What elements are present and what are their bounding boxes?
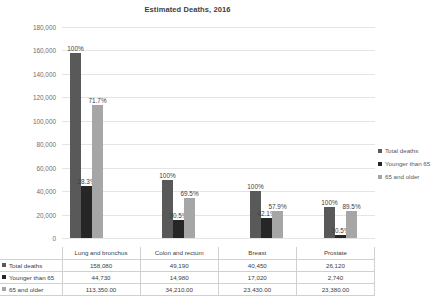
table-cell: 2,740 [296,271,374,283]
legend-swatch-icon [378,162,382,166]
bar[interactable] [272,211,283,238]
table-row-header: Total deaths [0,259,62,271]
legend-item-label: Younger than 65 [385,160,430,167]
table-column-header: Prostate [296,247,374,259]
bar[interactable] [162,180,173,238]
bar[interactable] [70,53,81,238]
chart-legend: Total deathsYounger than 6565 and older [378,144,444,183]
bar-group: 100%42.1%57.9% [250,27,283,238]
table-cell: 40,450 [218,259,296,271]
bar[interactable] [81,186,92,238]
table-cell: 158,080 [62,259,140,271]
bar[interactable] [346,211,357,238]
bar-value-label: 57.9% [265,203,291,210]
bar-value-label: 69.5% [177,190,203,197]
bar[interactable] [184,198,195,238]
table-column-header: Breast [218,247,296,259]
bar[interactable] [92,105,103,238]
table-cell: 14,980 [140,271,218,283]
legend-item[interactable]: Younger than 65 [378,157,444,170]
table-cell: 17,020 [218,271,296,283]
bar-value-label: 100% [155,172,181,179]
bar-value-label: 100% [63,45,89,52]
table-row-header-label: 65 and older [9,286,43,293]
table-cell: 44,730 [62,271,140,283]
table-column-header: Lung and bronchus [62,247,140,259]
bar-value-label: 100% [243,183,269,190]
table-corner-cell [0,247,62,259]
bar-value-label: 89.5% [339,203,365,210]
data-table: Lung and bronchusColon and rectumBreastP… [0,247,375,296]
bar-group: 100%28.3%71.7% [70,27,103,238]
table-cell: 49,190 [140,259,218,271]
legend-item[interactable]: Total deaths [378,144,444,157]
bar[interactable] [261,218,272,238]
bar-group: 100%10.5%89.5% [324,27,357,238]
legend-item-label: Total deaths [385,147,418,154]
bar-group: 100%30.5%69.5% [162,27,195,238]
table-cell: 23,430.00 [218,283,296,295]
table-row: 65 and older113,350.0034,210.0023,430.00… [0,283,375,295]
bar[interactable] [173,220,184,238]
series-swatch-icon [2,263,6,267]
bar[interactable] [335,235,346,238]
series-swatch-icon [2,287,6,291]
legend-item-label: 65 and older [385,173,419,180]
table-column-header: Colon and rectum [140,247,218,259]
legend-swatch-icon [378,175,382,179]
bar-value-label: 71.7% [85,97,111,104]
table-row: Younger than 6544,73014,98017,0202,740 [0,271,375,283]
legend-item[interactable]: 65 and older [378,170,444,183]
table-row-header: 65 and older [0,283,62,295]
series-swatch-icon [2,275,6,279]
table-row: Total deaths158,08049,19040,45026,120 [0,259,375,271]
table-row-header-label: Total deaths [9,262,42,269]
table-cell: 26,120 [296,259,374,271]
table-cell: 34,210.00 [140,283,218,295]
table-cell: 23,380.00 [296,283,374,295]
table-row-header: Younger than 65 [0,271,62,283]
legend-swatch-icon [378,149,382,153]
table-row-header-label: Younger than 65 [9,274,54,281]
table-header-row: Lung and bronchusColon and rectumBreastP… [0,247,375,259]
table-cell: 113,350.00 [62,283,140,295]
